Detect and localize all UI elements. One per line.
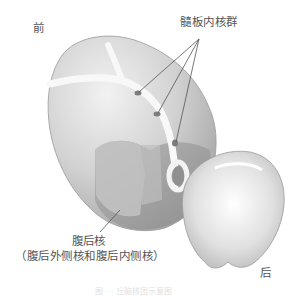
figure-caption-partial: 图 ··· 丘脑核团示意图 <box>95 285 172 296</box>
label-ventral-posterior-nucleus: 腹后核 <box>72 236 105 248</box>
label-intralaminar-nuclei: 髓板内核群 <box>180 17 238 29</box>
pulvinar <box>182 151 284 268</box>
label-ventral-posterior-detail: （腹后外侧核和腹后内侧核） <box>15 251 165 263</box>
label-posterior: 后 <box>260 268 271 280</box>
label-anterior: 前 <box>33 23 44 35</box>
